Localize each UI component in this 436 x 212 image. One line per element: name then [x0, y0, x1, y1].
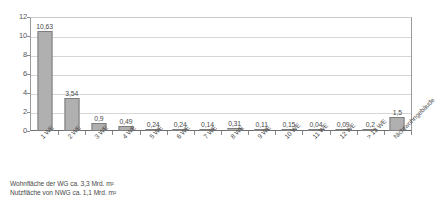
- bar-slot: 0,31: [221, 18, 248, 131]
- bar-slot: 0,49: [112, 18, 139, 131]
- bar: [37, 31, 52, 131]
- footnote-line-1: Wohnfläche der WG ca. 3,3 Mrd. m²: [10, 179, 116, 188]
- y-axis-label: 10: [3, 32, 27, 40]
- y-axis-label: 2: [3, 108, 27, 116]
- bar-slot: 0,24: [140, 18, 167, 131]
- y-axis-tick: [27, 131, 30, 132]
- y-axis: 024681012: [0, 0, 27, 148]
- bar-series: 10,633,540,90,490,240,240,140,310,110,15…: [31, 18, 411, 131]
- footnote: Wohnfläche der WG ca. 3,3 Mrd. m² Nutzfl…: [10, 179, 116, 197]
- y-axis-label: 4: [3, 89, 27, 97]
- bar-slot: 1,5: [384, 18, 411, 131]
- y-axis-label: 0: [3, 127, 27, 135]
- bar-slot: 0,2: [357, 18, 384, 131]
- bar-slot: 3,54: [58, 18, 85, 131]
- bar-value-label: 10,63: [36, 23, 53, 30]
- y-axis-label: 6: [3, 70, 27, 78]
- bar-value-label: 1,5: [393, 109, 402, 116]
- y-axis-label: 8: [3, 51, 27, 59]
- bar-slot: 0,14: [194, 18, 221, 131]
- bar-slot: 0,9: [85, 18, 112, 131]
- bar-value-label: 0,9: [94, 115, 103, 122]
- y-axis-label: 12: [3, 13, 27, 21]
- bar-slot: 0,09: [330, 18, 357, 131]
- bar-slot: 0,11: [248, 18, 275, 131]
- bar-slot: 10,63: [31, 18, 58, 131]
- footnote-line-2: Nutzfläche von NWG ca. 1,1 Mrd. m²: [10, 188, 116, 197]
- bar-slot: 0,04: [302, 18, 329, 131]
- bar-slot: 0,15: [275, 18, 302, 131]
- bar-slot: 0,24: [167, 18, 194, 131]
- bar-value-label: 3,54: [65, 90, 78, 97]
